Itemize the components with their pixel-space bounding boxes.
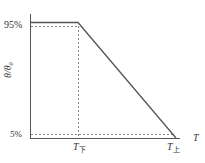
data-series-line [30, 23, 176, 139]
x-tick-t-low: T下 [73, 142, 86, 155]
chart-canvas [0, 0, 205, 163]
y-tick-95: 95% [4, 20, 22, 30]
y-tick-5: 5% [10, 129, 22, 139]
x-tick-t-low-sub: 下 [79, 146, 86, 154]
x-tick-t-high: T上 [167, 142, 180, 155]
y-axis-label: θ/θ₀ [2, 62, 13, 78]
x-tick-t-high-sub: 上 [173, 146, 180, 154]
x-axis-label: T [193, 133, 199, 143]
